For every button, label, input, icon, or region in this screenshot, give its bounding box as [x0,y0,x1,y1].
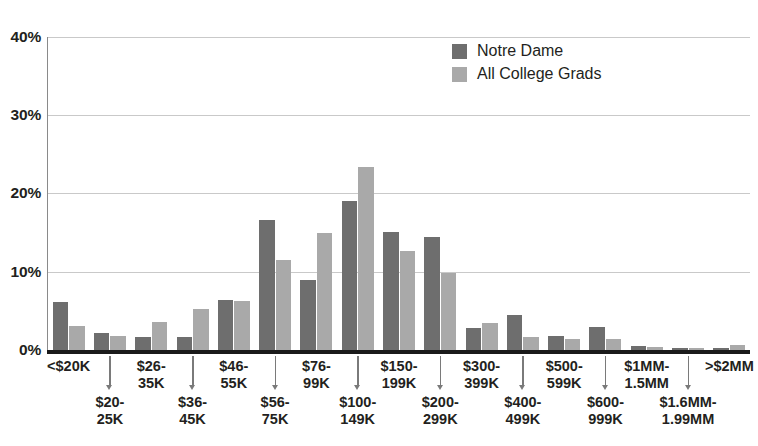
bar-notre-dame-2 [135,337,151,350]
bar-all-college-grads-15 [689,348,705,350]
bar-all-college-grads-9 [441,273,457,350]
y-tick-label-20: 20% [11,184,48,202]
bar-all-college-grads-13 [606,339,622,350]
income-distribution-bar-chart: 40% 30% 20% 10% 0% Notre Dame All Colleg… [0,0,758,446]
x-axis-label-12: $500- 599K [519,358,609,392]
x-axis-label-5: $56- 75K [230,394,320,428]
bar-notre-dame-4 [218,300,234,350]
bar-all-college-grads-1 [110,336,126,350]
bar-all-college-grads-5 [276,260,292,350]
bar-notre-dame-6 [300,280,316,350]
x-axis-label-8: $150- 199K [354,358,444,392]
x-axis-label-14: $1MM- 1.5MM [602,358,692,392]
bar-all-college-grads-10 [482,323,498,350]
bar-all-college-grads-16 [730,345,746,350]
legend-item-notre-dame: Notre Dame [452,42,602,60]
bar-notre-dame-15 [672,348,688,350]
bar-notre-dame-1 [94,333,110,350]
x-axis-labels: <$20K$20- 25K$26- 35K$36- 45K$46- 55K$56… [48,354,750,446]
x-axis-label-16: >$2MM [684,358,758,375]
y-tick-label-30: 30% [11,106,48,124]
chart-legend: Notre Dame All College Grads [452,42,602,83]
bar-all-college-grads-11 [523,337,539,350]
y-tick-label-10: 10% [11,263,48,281]
x-axis-label-3: $36- 45K [148,394,238,428]
bar-notre-dame-13 [589,327,605,350]
bar-all-college-grads-12 [565,339,581,350]
legend-swatch-icon-all-college-grads [452,67,467,82]
bar-notre-dame-14 [631,346,647,350]
x-axis-label-10: $300- 399K [437,358,527,392]
x-axis-label-2: $26- 35K [106,358,196,392]
x-axis-label-15: $1.6MM- 1.99MM [643,394,733,428]
x-axis-label-7: $100- 149K [313,394,403,428]
bar-all-college-grads-4 [234,301,250,350]
bar-notre-dame-16 [713,348,729,350]
x-axis-label-0: <$20K [24,358,114,375]
bar-notre-dame-11 [507,315,523,350]
bar-notre-dame-3 [177,337,193,350]
legend-item-all-college-grads: All College Grads [452,65,602,83]
bar-notre-dame-9 [424,237,440,350]
bar-all-college-grads-8 [400,251,416,350]
bar-all-college-grads-14 [647,347,663,350]
bars-layer [48,37,750,350]
x-axis-label-6: $76- 99K [271,358,361,392]
bar-notre-dame-8 [383,232,399,350]
legend-label-all-college-grads: All College Grads [477,65,602,83]
bar-all-college-grads-7 [358,167,374,350]
bar-all-college-grads-0 [69,326,85,350]
bar-notre-dame-0 [53,302,69,350]
x-axis-label-4: $46- 55K [189,358,279,392]
y-tick-label-40: 40% [11,28,48,46]
legend-label-notre-dame: Notre Dame [477,42,563,60]
bar-notre-dame-12 [548,336,564,350]
y-tick-label-0: 0% [19,341,48,359]
bar-notre-dame-7 [342,201,358,350]
bar-notre-dame-10 [466,328,482,350]
bar-all-college-grads-2 [152,322,168,350]
x-axis-label-11: $400- 499K [478,394,568,428]
bar-all-college-grads-6 [317,233,333,350]
bar-notre-dame-5 [259,220,275,350]
x-axis-label-1: $20- 25K [65,394,155,428]
x-axis-label-13: $600- 999K [560,394,650,428]
legend-swatch-icon-notre-dame [452,44,467,59]
bar-all-college-grads-3 [193,309,209,350]
x-axis-label-9: $200- 299K [395,394,485,428]
